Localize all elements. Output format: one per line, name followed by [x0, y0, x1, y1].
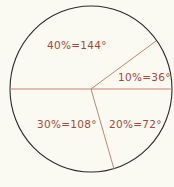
slice-label-20: 20%=72°: [109, 118, 162, 130]
slice-label-40: 40%=144°: [47, 39, 107, 51]
pie-chart: 40%=144° 10%=36° 30%=108° 20%=72°: [0, 0, 174, 187]
slice-label-10: 10%=36°: [118, 71, 171, 83]
slice-label-30: 30%=108°: [37, 118, 97, 130]
